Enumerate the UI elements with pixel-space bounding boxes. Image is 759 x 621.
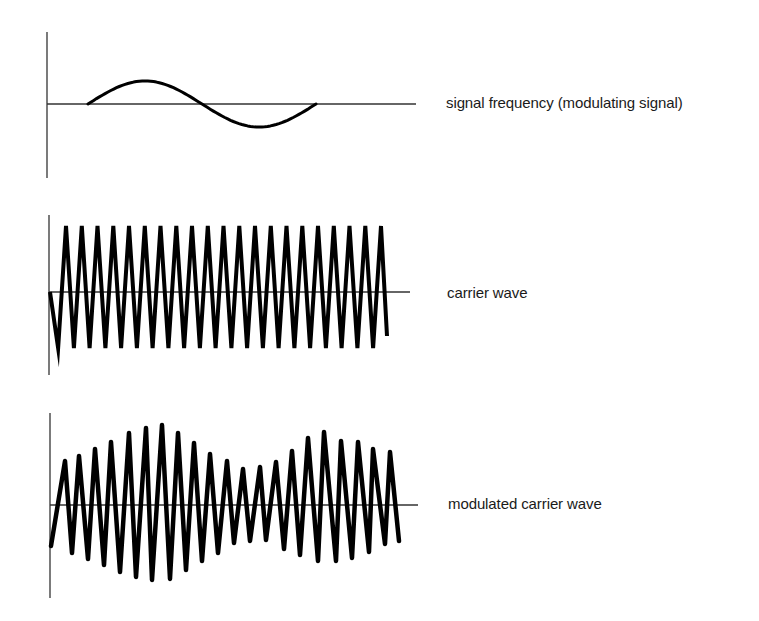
signal-frequency-label: signal frequency (modulating signal) <box>446 94 683 111</box>
panel-carrier <box>49 215 410 375</box>
carrier-wave-label: carrier wave <box>447 284 528 301</box>
panel-modulated <box>50 413 418 598</box>
carrier-wave <box>50 226 387 348</box>
modulated-carrier-wave <box>51 425 399 580</box>
modulated-carrier-wave-label: modulated carrier wave <box>448 495 602 512</box>
panel-signal <box>47 32 416 178</box>
